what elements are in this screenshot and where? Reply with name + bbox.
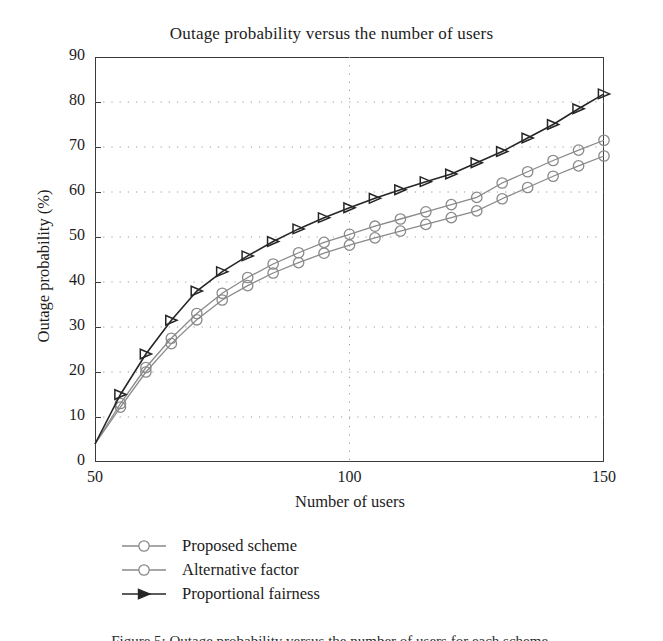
y-tick-50: 50 [39, 226, 85, 244]
legend-label-2: Alternative factor [170, 560, 299, 580]
legend-item-3: Proportional fairness [118, 582, 538, 606]
chart-title: Outage probability versus the number of … [0, 24, 663, 44]
legend-label-1: Proposed scheme [170, 536, 297, 556]
y-tick-80: 80 [39, 91, 85, 109]
gridlines [95, 57, 604, 462]
series-2 [95, 151, 609, 444]
y-tick-10: 10 [39, 406, 85, 424]
y-tick-mark-60 [95, 192, 101, 193]
y-tick-30: 30 [39, 316, 85, 334]
legend-item-2: Alternative factor [118, 558, 538, 582]
triangle-right-marker [118, 584, 170, 604]
y-tick-20: 20 [39, 361, 85, 379]
series-1 [95, 135, 609, 444]
y-tick-mark-30 [95, 327, 101, 328]
y-tick-90: 90 [39, 46, 85, 64]
circle-marker [118, 536, 170, 556]
y-axis-label: Outage probability (%) [34, 136, 54, 396]
y-tick-70: 70 [39, 136, 85, 154]
figure-caption: Figure 5: Outage probability versus the … [0, 633, 663, 641]
figure-caption-text: Figure 5: Outage probability versus the … [0, 633, 663, 641]
x-axis-label: Number of users [95, 492, 605, 512]
y-tick-mark-40 [95, 282, 101, 283]
circle-marker [118, 560, 170, 580]
legend-label-3: Proportional fairness [170, 584, 320, 604]
y-tick-60: 60 [39, 181, 85, 199]
x-tick-100: 100 [315, 468, 385, 486]
series-3 [95, 89, 610, 444]
x-tick-50: 50 [60, 468, 130, 486]
y-tick-mark-70 [95, 147, 101, 148]
y-tick-40: 40 [39, 271, 85, 289]
y-tick-mark-50 [95, 237, 101, 238]
y-tick-mark-20 [95, 372, 101, 373]
y-tick-0: 0 [39, 451, 85, 469]
y-tick-mark-10 [95, 417, 101, 418]
plot-series-canvas [95, 57, 604, 462]
figure-outage-probability: Outage probability versus the number of … [0, 0, 663, 641]
y-tick-mark-80 [95, 102, 101, 103]
legend-item-1: Proposed scheme [118, 534, 538, 558]
data-curves [95, 89, 610, 444]
chart-legend: Proposed schemeAlternative factorProport… [118, 534, 538, 606]
x-tick-150: 150 [569, 468, 639, 486]
